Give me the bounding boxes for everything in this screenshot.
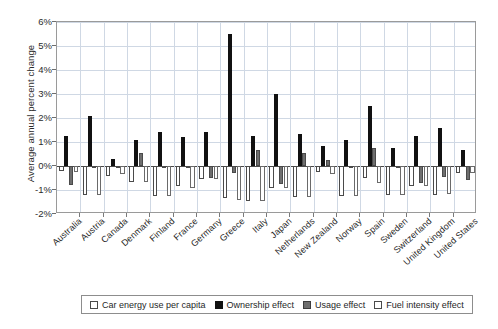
- bar: [153, 166, 157, 196]
- bar: [354, 166, 358, 196]
- bar: [438, 128, 442, 166]
- x-tick-mark: [243, 213, 244, 217]
- legend-swatch-icon: [215, 301, 223, 309]
- bar: [83, 166, 87, 195]
- bar: [92, 166, 96, 168]
- bar: [256, 150, 260, 166]
- bar: [330, 166, 334, 174]
- legend-swatch-icon: [303, 301, 311, 309]
- legend-item-label: Car energy use per capita: [102, 300, 206, 310]
- bar: [237, 166, 241, 200]
- bar: [111, 159, 115, 166]
- bar-group: [104, 22, 127, 212]
- bar: [279, 166, 283, 184]
- x-tick-mark: [103, 213, 104, 217]
- legend-item-label: Usage effect: [315, 300, 365, 310]
- bar: [176, 166, 180, 186]
- bar: [386, 166, 390, 195]
- bar: [74, 166, 78, 172]
- bar-group: [430, 22, 453, 212]
- y-tick-mark: [52, 69, 56, 70]
- y-tick-label: -2%: [6, 208, 52, 219]
- x-tick-mark: [266, 213, 267, 217]
- x-tick-label: Finland: [148, 216, 177, 244]
- y-tick-mark: [52, 93, 56, 94]
- bar: [349, 166, 353, 168]
- y-tick-mark: [52, 165, 56, 166]
- y-axis-tick-labels: -2%-1%0%1%2%3%4%5%6%: [0, 21, 52, 213]
- plot-area: [56, 21, 476, 213]
- y-tick-label: 6%: [6, 16, 52, 27]
- bar-group: [127, 22, 150, 212]
- bar-group: [454, 22, 476, 212]
- legend-swatch-icon: [374, 301, 382, 309]
- x-tick-label: Italy: [251, 216, 270, 235]
- y-tick-label: 1%: [6, 136, 52, 147]
- bar: [162, 166, 166, 168]
- legend-item[interactable]: Usage effect: [303, 300, 365, 310]
- bar: [88, 116, 92, 166]
- x-tick-mark: [383, 213, 384, 217]
- y-tick-label: 3%: [6, 88, 52, 99]
- legend-item-label: Ownership effect: [227, 300, 294, 310]
- bar: [139, 153, 143, 166]
- bar: [144, 166, 148, 182]
- bar: [363, 166, 367, 178]
- y-tick-mark: [52, 45, 56, 46]
- bar: [97, 166, 101, 195]
- bar: [400, 166, 404, 195]
- bar: [251, 136, 255, 166]
- bar: [339, 166, 343, 196]
- bar: [64, 136, 68, 166]
- bar: [186, 166, 190, 168]
- legend-item[interactable]: Ownership effect: [215, 300, 294, 310]
- x-tick-mark: [196, 213, 197, 217]
- bar: [190, 166, 194, 188]
- bar: [181, 137, 185, 166]
- y-tick-label: 4%: [6, 64, 52, 75]
- x-tick-mark: [126, 213, 127, 217]
- bar: [424, 166, 428, 186]
- bar: [246, 166, 250, 201]
- bar-group: [174, 22, 197, 212]
- bar: [260, 166, 264, 201]
- bar-group: [407, 22, 430, 212]
- bar: [344, 140, 348, 166]
- y-tick-label: 0%: [6, 160, 52, 171]
- legend-item[interactable]: Car energy use per capita: [90, 300, 206, 310]
- bar: [298, 134, 302, 166]
- bar: [391, 148, 395, 166]
- chart-legend: Car energy use per capitaOwnership effec…: [81, 295, 473, 314]
- bar: [134, 140, 138, 166]
- x-tick-mark: [149, 213, 150, 217]
- y-tick-label: 5%: [6, 40, 52, 51]
- legend-item-label: Fuel intensity effect: [386, 300, 463, 310]
- bar-group: [360, 22, 383, 212]
- bar: [284, 166, 288, 188]
- bar: [396, 166, 400, 168]
- legend-item[interactable]: Fuel intensity effect: [374, 300, 463, 310]
- bar: [209, 166, 213, 178]
- legend-swatch-icon: [90, 301, 98, 309]
- x-tick-label: Norway: [334, 216, 364, 244]
- bar-group: [314, 22, 337, 212]
- x-tick-mark: [79, 213, 80, 217]
- y-tick-mark: [52, 117, 56, 118]
- x-tick-mark: [429, 213, 430, 217]
- y-tick-mark: [52, 141, 56, 142]
- x-tick-mark: [289, 213, 290, 217]
- bar: [269, 166, 273, 188]
- bar: [120, 166, 124, 174]
- x-tick-mark: [313, 213, 314, 217]
- bar: [204, 132, 208, 166]
- bar: [372, 148, 376, 166]
- bar-group: [80, 22, 103, 212]
- bar: [158, 132, 162, 166]
- x-tick-mark: [453, 213, 454, 217]
- bar: [116, 166, 120, 168]
- bar-group: [337, 22, 360, 212]
- bar-group: [150, 22, 173, 212]
- bar: [466, 166, 470, 180]
- x-tick-mark: [219, 213, 220, 217]
- bar: [326, 160, 330, 166]
